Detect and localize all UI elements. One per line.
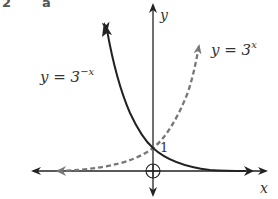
growth-curve-label: y = 3x — [210, 39, 257, 59]
growth-label-base: y = 3 — [210, 41, 251, 59]
y-intercept-label: 1 — [160, 140, 168, 155]
decay-label-base: y = 3 — [39, 68, 80, 86]
svg-text:y = 3x: y = 3x — [210, 39, 257, 59]
svg-text:y = 3−x: y = 3−x — [39, 66, 95, 86]
growth-label-exponent: x — [251, 39, 257, 50]
decay-curve-label: y = 3−x — [39, 66, 95, 86]
origin-circled-cross-icon — [146, 164, 160, 178]
y-axis-label: y — [159, 7, 169, 23]
decay-label-exponent: −x — [80, 66, 94, 77]
x-axis-label: x — [260, 180, 268, 196]
part-label: a — [42, 0, 51, 10]
exponential-graph: 2 a y x 1 y = 3−x y = 3x — [0, 0, 278, 199]
question-number: 2 — [2, 0, 11, 10]
